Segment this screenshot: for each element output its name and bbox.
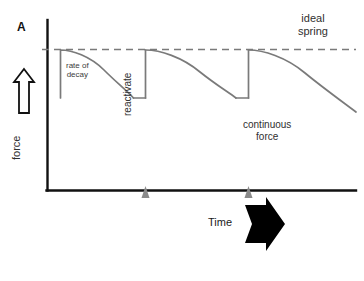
- right-arrow-solid-icon: [245, 197, 285, 251]
- ideal-spring-annotation: ideal spring: [298, 12, 328, 37]
- continuous-force-annotation: continuous force: [243, 119, 291, 142]
- decay-curve-cycle-2: [146, 50, 237, 98]
- panel-label: A: [17, 21, 26, 35]
- x-axis-label: Time: [208, 216, 232, 229]
- force-vs-time-plot: [0, 0, 364, 281]
- reactivate-annotation: reactivate: [122, 73, 134, 116]
- figure-panel-a: A ideal spring rate of decay reactivate …: [0, 0, 364, 281]
- up-arrow-outline-icon: [14, 69, 34, 113]
- rate-of-decay-annotation: rate of decay: [66, 61, 89, 79]
- event-tick-marker-2: [245, 186, 253, 198]
- event-tick-marker-1: [142, 186, 150, 198]
- y-axis-label: force: [10, 136, 23, 160]
- decay-curve-cycle-3: [249, 50, 357, 112]
